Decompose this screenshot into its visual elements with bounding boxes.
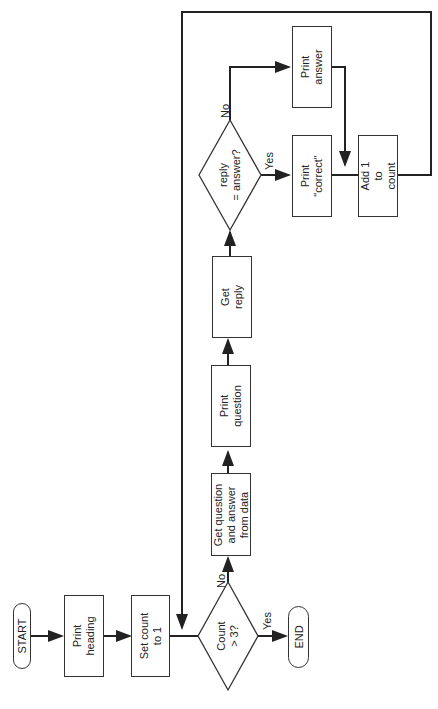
- print-answer-label: Print answer: [299, 49, 325, 84]
- add-one-label: Add 1 to count: [359, 162, 398, 191]
- print-correct-label: Print "correct": [299, 155, 325, 196]
- get-reply-box: Get reply: [212, 256, 252, 338]
- set-count-box: Set count to 1: [131, 595, 170, 677]
- print-question-box: Print question: [211, 365, 251, 447]
- reply-no-label: No: [219, 104, 231, 118]
- end-label: END: [292, 625, 305, 648]
- reply-yes-label: Yes: [263, 152, 275, 170]
- count-no-label: No: [215, 574, 227, 588]
- reply-check-text: reply = answer?: [199, 120, 261, 230]
- count-yes-label: Yes: [261, 612, 273, 630]
- get-question-box: Get question and answer from data: [211, 473, 251, 556]
- add-one-box: Add 1 to count: [358, 135, 398, 217]
- print-heading-box: Print heading: [64, 595, 104, 677]
- start-label: START: [16, 618, 29, 653]
- start-terminal: START: [13, 603, 31, 669]
- print-correct-box: Print "correct": [292, 135, 332, 217]
- end-terminal: END: [288, 606, 309, 668]
- get-question-label: Get question and answer from data: [212, 483, 251, 545]
- set-count-label: Set count to 1: [138, 613, 164, 659]
- print-answer-box: Print answer: [292, 26, 332, 108]
- count-check-text: Count > 3?: [198, 582, 258, 690]
- print-heading-label: Print heading: [71, 616, 97, 655]
- print-question-label: Print question: [218, 385, 244, 427]
- get-reply-label: Get reply: [219, 285, 245, 309]
